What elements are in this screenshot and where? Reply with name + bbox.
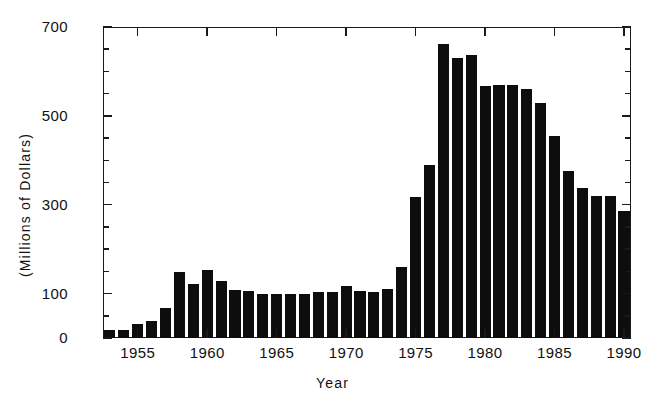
x-tick-top [276, 27, 278, 36]
y-tick-minor [103, 160, 109, 162]
x-tick-label: 1990 [592, 345, 656, 360]
x-tick-top [137, 27, 139, 36]
bar [257, 294, 268, 338]
bar [382, 289, 393, 338]
x-tick-label: 1980 [453, 345, 517, 360]
bar [618, 211, 629, 338]
bar [507, 85, 518, 338]
y-tick-minor [103, 315, 109, 317]
x-tick [206, 329, 208, 338]
bar-chart: (Millions of Dollars) 010030050070019551… [0, 0, 665, 409]
bar [118, 330, 129, 338]
y-tick-minor [103, 248, 109, 250]
y-tick-label: 300 [8, 197, 68, 212]
y-tick-minor-right [625, 182, 631, 184]
x-tick-label: 1975 [384, 345, 448, 360]
bar [549, 136, 560, 338]
bar [466, 55, 477, 338]
bar [480, 86, 491, 338]
bar [313, 292, 324, 338]
y-tick-minor [103, 71, 109, 73]
y-tick-minor-right [625, 226, 631, 228]
x-tick-label: 1955 [106, 345, 170, 360]
x-tick-label: 1960 [175, 345, 239, 360]
x-tick [554, 329, 556, 338]
x-axis-title: Year [0, 375, 665, 391]
y-tick-right [622, 293, 631, 295]
bar [521, 89, 532, 338]
y-tick [103, 204, 112, 206]
y-tick-minor [103, 137, 109, 139]
y-tick-minor-right [625, 315, 631, 317]
x-tick-label: 1965 [245, 345, 309, 360]
y-tick-minor-right [625, 71, 631, 73]
x-tick [137, 329, 139, 338]
x-tick [345, 329, 347, 338]
bar [563, 171, 574, 338]
y-tick-minor [103, 226, 109, 228]
x-tick [623, 329, 625, 338]
y-tick-minor [103, 48, 109, 50]
bar [285, 294, 296, 338]
bar [438, 44, 449, 338]
x-tick [276, 329, 278, 338]
x-tick-label: 1970 [314, 345, 378, 360]
bar [410, 197, 421, 338]
x-tick-top [554, 27, 556, 36]
bar [188, 284, 199, 338]
y-tick-label: 0 [8, 330, 68, 345]
bar [160, 308, 171, 338]
x-tick-top [206, 27, 208, 36]
y-tick-minor-right [625, 48, 631, 50]
y-tick-minor [103, 93, 109, 95]
y-tick-minor-right [625, 93, 631, 95]
bar [327, 292, 338, 338]
bar [299, 294, 310, 338]
bar [493, 85, 504, 338]
x-tick [484, 329, 486, 338]
bar [591, 196, 602, 338]
x-tick-label: 1985 [523, 345, 587, 360]
x-tick-top [623, 27, 625, 36]
bar [452, 58, 463, 338]
bar [216, 281, 227, 338]
bar [577, 188, 588, 338]
bars-layer [103, 27, 631, 338]
x-tick-top [345, 27, 347, 36]
bar [605, 196, 616, 338]
bar [229, 290, 240, 338]
y-tick-label: 500 [8, 108, 68, 123]
y-tick-right [622, 204, 631, 206]
bar [354, 291, 365, 338]
bar [396, 267, 407, 338]
x-tick-top [484, 27, 486, 36]
bar [424, 165, 435, 338]
y-tick-label: 700 [8, 19, 68, 34]
y-tick-right [622, 115, 631, 117]
bar [146, 321, 157, 338]
bar [243, 291, 254, 338]
y-tick [103, 293, 112, 295]
y-tick [103, 115, 112, 117]
y-tick-label: 100 [8, 286, 68, 301]
y-tick [103, 337, 112, 339]
bar [202, 270, 213, 338]
x-tick-top [415, 27, 417, 36]
y-tick-minor-right [625, 137, 631, 139]
y-tick-minor-right [625, 248, 631, 250]
x-tick [415, 329, 417, 338]
y-tick-minor-right [625, 160, 631, 162]
y-tick [103, 26, 112, 28]
y-tick-minor [103, 182, 109, 184]
y-tick-minor [103, 271, 109, 273]
bar [535, 103, 546, 338]
bar [174, 272, 185, 338]
bar [368, 292, 379, 338]
y-tick-minor-right [625, 271, 631, 273]
